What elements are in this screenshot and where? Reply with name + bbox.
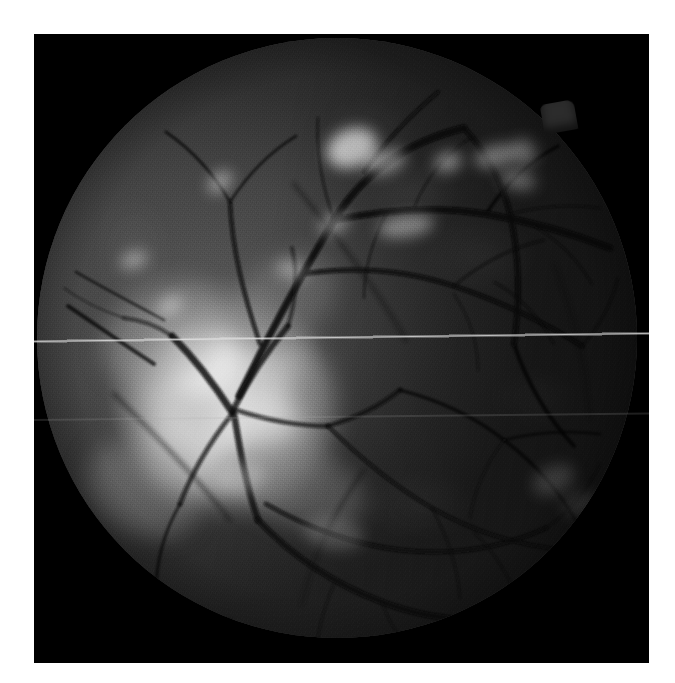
photographic-plate: Greyscale fundus photograph showing a bl… bbox=[34, 34, 649, 663]
fundus-image-page: Greyscale fundus photograph showing a bl… bbox=[0, 0, 675, 683]
rim-notch bbox=[540, 99, 579, 134]
